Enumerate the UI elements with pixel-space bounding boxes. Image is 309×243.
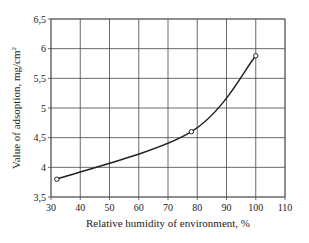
y-tick-label: 4 <box>41 162 46 173</box>
y-axis-label: Value of adsoption, mg/cm2 <box>10 46 22 169</box>
y-tick-label: 4,5 <box>34 132 47 143</box>
data-series-line <box>57 56 256 179</box>
x-tick-label: 30 <box>46 202 56 213</box>
y-axis-label-superscript: 2 <box>10 46 18 50</box>
y-axis-label-main: Value of adsoption, mg/cm <box>10 50 22 169</box>
y-tick-label: 6 <box>41 43 46 54</box>
chart-container: 30405060708090100110 3,544,555,566,5 Rel… <box>0 0 309 243</box>
x-tick-label: 50 <box>105 202 115 213</box>
y-tick-label: 3,5 <box>34 192 47 203</box>
x-tick-label: 70 <box>163 202 173 213</box>
x-tick-label: 60 <box>134 202 144 213</box>
x-axis-label: Relative humidity of environment, % <box>86 217 250 229</box>
x-tick-label: 40 <box>75 202 85 213</box>
x-tick-label: 100 <box>248 202 263 213</box>
y-tick-labels: 3,544,555,566,5 <box>34 14 47 203</box>
data-point-marker <box>55 177 59 181</box>
data-point-marker <box>254 54 258 58</box>
line-chart: 30405060708090100110 3,544,555,566,5 Rel… <box>0 0 309 243</box>
y-tick-label: 5 <box>41 103 46 114</box>
y-tick-label: 6,5 <box>34 14 47 25</box>
x-tick-label: 80 <box>192 202 202 213</box>
x-tick-label: 90 <box>222 202 232 213</box>
data-point-markers <box>55 54 258 182</box>
x-tick-label: 110 <box>278 202 293 213</box>
y-tick-label: 5,5 <box>34 73 47 84</box>
axes <box>48 19 285 200</box>
x-tick-labels: 30405060708090100110 <box>46 202 292 213</box>
data-point-marker <box>189 130 193 134</box>
